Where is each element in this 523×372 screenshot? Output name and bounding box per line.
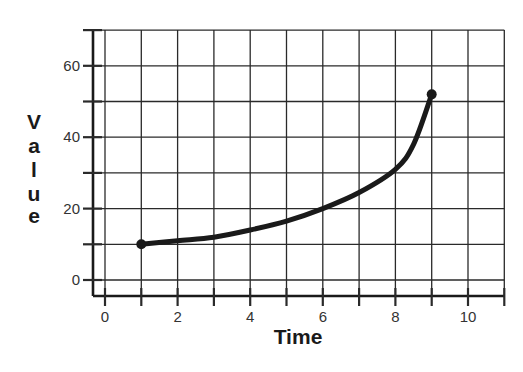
x-tick-label: 8 [391,308,399,325]
line-chart: 0246810 0204060 Time [0,0,523,372]
y-tick-labels: 0204060 [63,57,80,288]
axes [93,30,504,296]
grid-lines [93,30,504,296]
y-tick-label: 40 [63,128,80,145]
x-tick-label: 2 [173,308,181,325]
y-axis-title-letter: e [24,206,44,226]
endpoint-marker [136,239,146,249]
x-axis-title: Time [274,325,323,348]
y-tick-label: 0 [72,271,80,288]
x-tick-label: 4 [246,308,254,325]
x-tick-label: 6 [319,308,327,325]
y-tick-label: 20 [63,200,80,217]
endpoint-marker [427,89,437,99]
y-axis-title-letter: u [24,184,44,204]
x-tick-label: 0 [101,308,109,325]
x-tick-labels: 0246810 [101,308,477,325]
y-axis-title-letter: V [24,112,44,132]
y-axis-title-letter: a [24,136,44,156]
x-tick-label: 10 [460,308,477,325]
y-tick-label: 60 [63,57,80,74]
tick-marks [83,30,504,306]
y-axis-title-letter: l [24,160,44,180]
